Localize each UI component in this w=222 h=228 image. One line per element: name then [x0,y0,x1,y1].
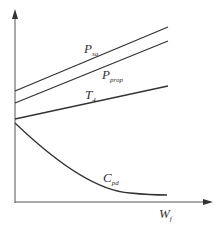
label-p-prop-main: P [102,67,110,82]
curve-p-sq [15,27,168,91]
label-c-pd: Cpd [103,171,119,187]
label-t4-sub: 4 [92,96,96,104]
label-c-pd-main: C [103,170,112,185]
label-p-prop-sub: prop [110,76,123,84]
curve-c-pd [15,123,167,195]
x-axis-label-main: W [159,206,170,221]
x-axis-arrow-icon [203,199,213,205]
label-p-prop: Pprop [102,68,123,84]
y-axis-arrow-icon [12,9,18,19]
label-p-sq: Psq [84,42,98,58]
x-axis-label-sub: f [170,215,172,223]
label-c-pd-sub: pd [112,179,119,187]
label-p-sq-main: P [84,41,92,56]
label-p-sq-sub: sq [92,50,98,58]
label-t4: T4 [85,88,96,104]
diagram-canvas [0,0,222,228]
x-axis-label: Wf [159,207,172,223]
